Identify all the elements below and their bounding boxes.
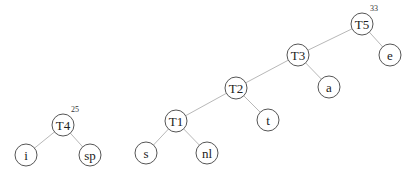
node-t: t bbox=[257, 109, 279, 131]
node-a: a bbox=[318, 76, 340, 98]
node-sp: sp bbox=[79, 144, 101, 166]
svg-text:s: s bbox=[143, 146, 148, 161]
svg-text:T2: T2 bbox=[229, 81, 243, 96]
node-t5: T5 bbox=[351, 13, 373, 35]
diagram-canvas: T4 25 i sp T5 33 e T3 a T2 t T1 s nl bbox=[0, 0, 414, 174]
svg-text:e: e bbox=[387, 48, 393, 63]
svg-text:a: a bbox=[326, 80, 332, 95]
svg-text:i: i bbox=[24, 148, 28, 163]
node-e: e bbox=[379, 44, 401, 66]
node-t4: T4 bbox=[52, 114, 74, 136]
svg-text:T1: T1 bbox=[169, 114, 183, 129]
tree-t5-edges bbox=[146, 24, 390, 153]
node-s: s bbox=[135, 142, 157, 164]
node-t3: T3 bbox=[287, 44, 309, 66]
node-nl: nl bbox=[196, 142, 218, 164]
svg-text:nl: nl bbox=[202, 146, 213, 161]
svg-text:T3: T3 bbox=[291, 48, 305, 63]
svg-text:sp: sp bbox=[84, 148, 96, 163]
weight-t4: 25 bbox=[71, 105, 79, 114]
node-t2: T2 bbox=[225, 77, 247, 99]
svg-text:t: t bbox=[266, 113, 270, 128]
weight-t5: 33 bbox=[370, 4, 378, 13]
svg-text:T5: T5 bbox=[355, 17, 369, 32]
svg-text:T4: T4 bbox=[56, 118, 71, 133]
node-t1: T1 bbox=[165, 110, 187, 132]
node-i: i bbox=[15, 144, 37, 166]
